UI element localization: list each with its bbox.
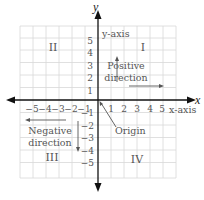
y-ticks-negative: −1 −2 −3 −4 −5 [81, 108, 95, 168]
y-axis-down-arrow-icon [95, 183, 102, 192]
positive-direction-line1: Positive [107, 60, 145, 71]
quadrant-3-label: III [45, 151, 58, 164]
svg-text:4: 4 [87, 48, 93, 58]
positive-direction-line2: direction [104, 72, 147, 83]
y-axis-letter: y [92, 0, 99, 14]
svg-text:−2: −2 [64, 104, 77, 114]
coordinate-plane-diagram: y x y-axis x-axis 5 4 3 2 1 −1 −2 −3 −4 … [0, 0, 204, 200]
quadrant-1-label: I [141, 41, 145, 54]
svg-text:2: 2 [121, 104, 127, 114]
svg-text:3: 3 [87, 61, 93, 71]
svg-text:4: 4 [147, 104, 153, 114]
y-ticks-positive: 5 4 3 2 1 [87, 36, 93, 96]
negative-down-arrow-icon [76, 121, 80, 152]
svg-text:−4: −4 [81, 146, 95, 156]
svg-text:3: 3 [134, 104, 140, 114]
svg-text:5: 5 [87, 36, 93, 46]
y-axis [95, 10, 102, 192]
negative-direction-line2: direction [28, 137, 71, 148]
svg-text:−4: −4 [38, 104, 52, 114]
svg-text:−2: −2 [81, 121, 94, 131]
svg-text:−3: −3 [81, 133, 95, 143]
svg-text:−3: −3 [51, 104, 65, 114]
svg-text:1: 1 [108, 104, 114, 114]
svg-text:1: 1 [87, 86, 93, 96]
origin-label: Origin [115, 125, 146, 136]
negative-left-arrow-icon [25, 118, 66, 122]
svg-text:−5: −5 [25, 104, 39, 114]
quadrant-2-label: II [49, 41, 58, 54]
negative-direction-line1: Negative [28, 125, 72, 136]
x-ticks-negative: −5 −4 −3 −2 −1 [25, 104, 90, 114]
svg-text:−5: −5 [81, 158, 95, 168]
x-axis-left-arrow-icon [6, 97, 15, 104]
quadrant-4-label: IV [131, 153, 144, 166]
svg-text:−1: −1 [77, 104, 90, 114]
svg-text:2: 2 [87, 73, 93, 83]
y-axis-caption: y-axis [101, 28, 130, 39]
svg-text:5: 5 [159, 104, 165, 114]
x-axis-caption: x-axis [169, 104, 196, 115]
